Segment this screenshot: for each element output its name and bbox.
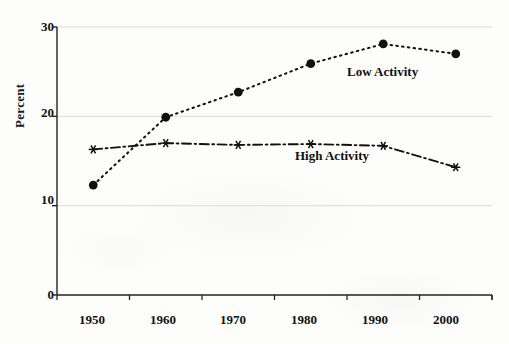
data-point-high-activity-1970	[234, 141, 243, 149]
series-paths	[89, 40, 461, 190]
data-point-low-activity-1990	[379, 40, 388, 49]
data-point-low-activity-1950	[89, 181, 98, 190]
data-point-high-activity-1950	[89, 145, 98, 153]
series-line-high-activity	[93, 143, 456, 167]
data-point-low-activity-2000	[451, 49, 460, 58]
data-point-low-activity-1960	[161, 113, 170, 122]
data-point-low-activity-1980	[306, 59, 315, 68]
plot-area	[0, 0, 509, 344]
data-point-high-activity-2000	[451, 163, 460, 171]
axis-lines	[52, 27, 492, 300]
data-point-high-activity-1990	[379, 142, 388, 150]
data-point-low-activity-1970	[234, 88, 243, 97]
chart-container: Percent 30 20 10 0 1950 1960 1970 1980 1…	[0, 0, 509, 344]
series-line-low-activity	[93, 44, 456, 185]
data-point-high-activity-1980	[306, 140, 315, 148]
grid-lines	[57, 27, 492, 206]
data-point-high-activity-1960	[161, 139, 170, 147]
